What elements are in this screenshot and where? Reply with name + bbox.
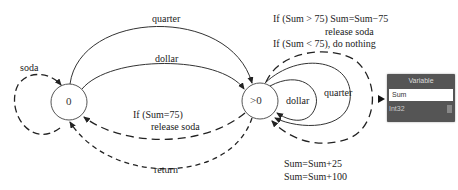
self-dollar-label: dollar (286, 95, 309, 106)
self-quarter-label: quarter (324, 87, 352, 98)
variable-type[interactable]: Int32 (387, 102, 455, 116)
soda-loop (14, 74, 61, 134)
widget-input-arrow-icon (378, 95, 385, 103)
return-label: return (154, 164, 178, 175)
state-positive-label: >0 (250, 94, 262, 106)
dollar-label: dollar (155, 53, 178, 64)
state-zero-label: 0 (66, 95, 72, 107)
action-line-2: Sum=Sum+100 (284, 171, 347, 182)
quarter-label: quarter (152, 13, 180, 24)
variable-type-label: Int32 (389, 105, 405, 112)
soda-label: soda (20, 62, 38, 73)
type-selector-icon[interactable] (447, 105, 452, 113)
release-label-2: release soda (151, 121, 200, 132)
variable-widget-title: Variable (387, 74, 455, 88)
action-line-1: Sum=Sum+25 (284, 158, 342, 169)
condition-line-3: If (Sum < 75), do nothing (273, 38, 376, 49)
variable-name-field[interactable]: Sum (389, 89, 453, 101)
condition-line-1: If (Sum > 75) Sum=Sum−75 (273, 13, 388, 24)
condition-line-2: release soda (325, 26, 374, 37)
condition-loop (266, 52, 372, 143)
release-label-1: If (Sum=75) (133, 109, 183, 120)
dollar-arc (82, 64, 244, 90)
variable-widget[interactable]: Variable Sum Int32 (387, 74, 455, 122)
